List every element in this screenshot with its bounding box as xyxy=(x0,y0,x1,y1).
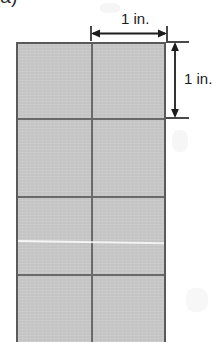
width-dimension-label: 1 in. xyxy=(121,10,149,27)
scan-smudge xyxy=(186,288,208,312)
scan-smudge xyxy=(172,130,188,152)
height-dimension-label: 1 in. xyxy=(184,70,212,87)
width-dimension-arrow xyxy=(86,26,176,42)
scan-smudge xyxy=(100,3,120,13)
figure-part-label: (a) xyxy=(0,0,17,8)
shaded-rectangle xyxy=(16,42,166,342)
figure-container: (a) 1 in. 1 in. xyxy=(0,0,221,342)
grid-line-vertical-1 xyxy=(91,44,93,342)
